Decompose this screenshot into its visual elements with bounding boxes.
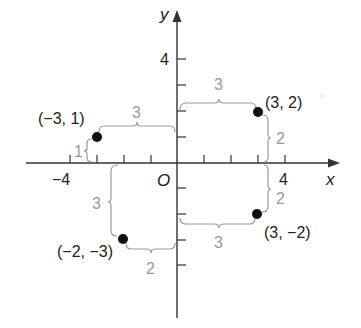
point-label-neg2-neg3: (−2, −3) [57, 243, 113, 260]
y-axis [173, 10, 187, 318]
dist-label-p4-vertical: 3 [92, 195, 101, 212]
point-neg2-neg3 [118, 234, 128, 244]
point-3-2 [253, 107, 263, 117]
point-3-neg2 [252, 209, 262, 219]
x-tick-label-neg4: −4 [52, 171, 70, 188]
coordinate-plane: y x O −4 4 4 3 1 3 2 2 3 3 2 (−3, 1) (3,… [0, 0, 361, 328]
x-axis-label: x [325, 170, 335, 189]
origin-label: O [157, 171, 170, 190]
point-label-3-neg2: (3, −2) [264, 224, 311, 241]
point-label-3-2: (3, 2) [265, 94, 302, 111]
y-axis-label: y [159, 5, 170, 24]
dist-label-p3-horizontal: 3 [214, 234, 223, 251]
dist-label-p2-vertical: 2 [276, 130, 285, 147]
y-axis-arrow-icon [173, 10, 182, 22]
dist-label-p3-vertical: 2 [276, 190, 285, 207]
dist-label-p4-horizontal: 2 [146, 260, 155, 277]
dist-label-p1-horizontal: 3 [132, 104, 141, 121]
x-axis-arrow-icon [328, 159, 340, 168]
stray-dot [321, 95, 323, 97]
y-tick-label-4: 4 [160, 51, 169, 68]
point-label-neg3-1: (−3, 1) [38, 110, 85, 127]
point-neg3-1 [92, 132, 102, 142]
braces-point-neg3-1 [84, 122, 175, 162]
x-tick-label-4: 4 [279, 171, 288, 188]
dist-label-p1-vertical: 1 [74, 143, 83, 160]
dist-label-p2-horizontal: 3 [214, 76, 223, 93]
